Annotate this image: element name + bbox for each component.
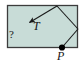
unknown-angle-label: ? <box>9 29 14 40</box>
ray-diagram-figure: T ? P <box>0 0 84 62</box>
point-label-p: P <box>57 50 64 62</box>
ray-label-t: T <box>33 20 40 32</box>
